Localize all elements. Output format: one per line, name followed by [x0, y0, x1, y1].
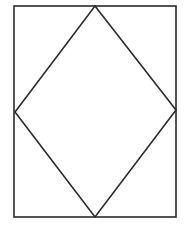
rectangle-with-inscribed-rhombus: [0, 0, 184, 230]
outer-rectangle: [14, 6, 176, 217]
diagram-canvas: [0, 0, 184, 230]
inscribed-rhombus: [15, 6, 176, 217]
